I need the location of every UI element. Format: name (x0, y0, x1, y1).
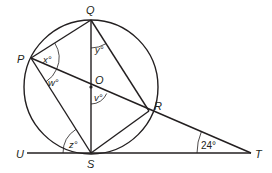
angle-label-v: v° (94, 92, 103, 103)
point-label-p: P (17, 53, 25, 65)
point-label-r: R (154, 100, 162, 112)
chord-pq (31, 20, 91, 58)
line-p-to-t (31, 58, 251, 153)
angle-label-24: 24° (201, 140, 216, 151)
angle-label-x: x° (42, 54, 52, 65)
angle-label-z: z° (68, 139, 78, 150)
point-label-t: T (255, 148, 263, 160)
point-label-o: O (95, 74, 104, 86)
point-label-u: U (16, 148, 24, 160)
angle-label-y: y° (94, 44, 104, 55)
angle-label-w: w° (48, 77, 59, 88)
chord-ps (31, 58, 91, 153)
point-label-s: S (87, 158, 95, 170)
circle-geometry-diagram: x° w° y° v° z° 24° Q P O R S T U (0, 0, 272, 173)
center-point-o (89, 85, 92, 88)
angle-arc-x (55, 43, 59, 69)
point-label-q: Q (86, 4, 95, 16)
